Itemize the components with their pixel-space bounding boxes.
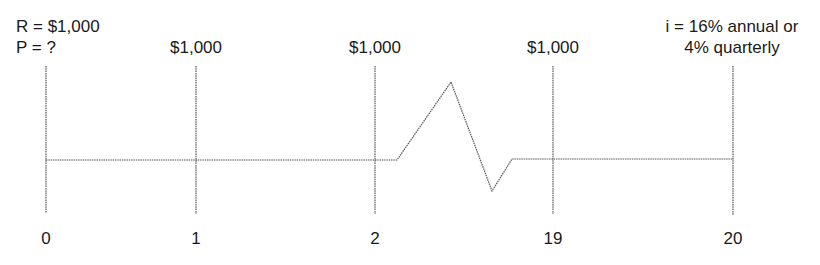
period-19: 19 [544,229,563,249]
cashflow-2: $1,000 [349,38,401,58]
period-20: 20 [724,229,743,249]
cashflow-19: $1,000 [527,38,579,58]
period-1: 1 [191,229,200,249]
cashflow-1: $1,000 [170,38,222,58]
timeline-axis-broken [46,82,733,191]
period-0: 0 [41,229,50,249]
quarterly-rate-label: 4% quarterly [684,38,779,58]
rate-payment-label: R = $1,000 [16,17,100,37]
present-value-label: P = ? [16,38,56,58]
period-2: 2 [370,229,379,249]
interest-rate-label: i = 16% annual or [666,17,799,37]
